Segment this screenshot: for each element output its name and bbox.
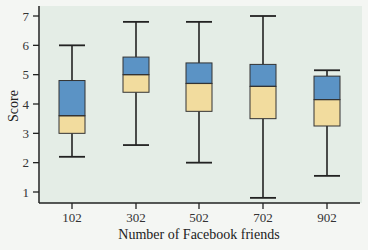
upper-box (123, 57, 149, 75)
y-axis-label: Score (6, 90, 21, 122)
y-tick-label: 5 (23, 67, 30, 82)
lower-box (59, 116, 85, 134)
y-tick-label: 4 (23, 97, 30, 112)
lower-box (250, 86, 276, 118)
upper-box (314, 76, 340, 99)
x-tick-label: 702 (253, 210, 273, 225)
y-tick-label: 7 (23, 9, 30, 24)
x-axis-label: Number of Facebook friends (118, 227, 279, 242)
y-tick-label: 2 (23, 155, 30, 170)
upper-box (250, 64, 276, 86)
y-tick-label: 6 (23, 38, 30, 53)
x-tick-label: 902 (317, 210, 337, 225)
y-tick-label: 3 (23, 126, 30, 141)
y-axis-ticks: 1234567 (23, 9, 40, 200)
x-tick-label: 102 (62, 210, 82, 225)
x-tick-label: 502 (189, 210, 209, 225)
box-plot-chart: 1234567 102302502702902 Score Number of … (0, 0, 368, 250)
x-tick-label: 302 (126, 210, 146, 225)
x-axis-ticks: 102302502702902 (62, 203, 337, 225)
upper-box (186, 63, 212, 84)
lower-box (186, 83, 212, 111)
lower-box (123, 75, 149, 93)
upper-box (59, 81, 85, 116)
y-tick-label: 1 (23, 185, 30, 200)
lower-box (314, 100, 340, 126)
